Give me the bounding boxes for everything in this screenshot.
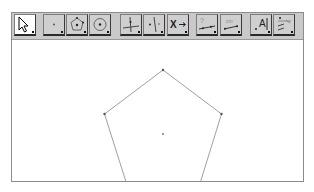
center-point[interactable] xyxy=(162,133,164,135)
svg-text:cm: cm xyxy=(226,18,233,24)
drawing-canvas[interactable] xyxy=(12,40,303,181)
submenu-indicator-icon xyxy=(185,31,187,33)
submenu-indicator-icon xyxy=(268,31,270,33)
slider-tool-button[interactable] xyxy=(273,14,295,36)
regular-pentagon[interactable] xyxy=(105,70,222,181)
vertex-point[interactable] xyxy=(162,69,164,71)
reflect-tool-button[interactable]: X xyxy=(167,14,189,36)
submenu-indicator-icon xyxy=(238,31,240,33)
submenu-indicator-icon xyxy=(291,31,293,33)
svg-text:A: A xyxy=(259,18,266,29)
submenu-indicator-icon xyxy=(161,31,163,33)
svg-text:X: X xyxy=(170,19,177,30)
submenu-indicator-icon xyxy=(32,31,34,33)
submenu-indicator-icon xyxy=(107,31,109,33)
circle-tool-button[interactable] xyxy=(89,14,111,36)
regular-polygon-tool-button[interactable] xyxy=(66,14,88,36)
perpendicular-line-tool-button[interactable] xyxy=(120,14,142,36)
distance-tool-button[interactable]: cm xyxy=(220,14,242,36)
point-tool-button[interactable] xyxy=(43,14,65,36)
pentagon-construction xyxy=(12,40,303,181)
submenu-indicator-icon xyxy=(61,31,63,33)
angle-bisector-tool-button[interactable] xyxy=(143,14,165,36)
vertex-point[interactable] xyxy=(220,113,222,115)
submenu-indicator-icon xyxy=(84,31,86,33)
svg-text:?: ? xyxy=(200,17,204,24)
relation-tool-button[interactable]: ? xyxy=(196,14,218,36)
geometry-window: X ? cm xyxy=(11,12,304,182)
text-tool-button[interactable]: A xyxy=(250,14,272,36)
submenu-indicator-icon xyxy=(214,31,216,33)
submenu-indicator-icon xyxy=(138,31,140,33)
toolbar: X ? cm xyxy=(12,13,303,40)
move-tool-button[interactable] xyxy=(14,14,36,36)
vertex-point[interactable] xyxy=(103,113,105,115)
